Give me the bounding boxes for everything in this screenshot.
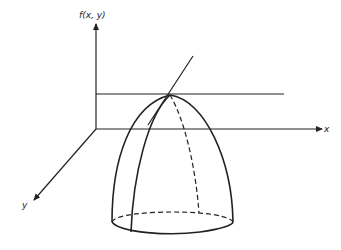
- base-back: [112, 212, 233, 222]
- surface-diagram: f(x, y) x y: [0, 0, 341, 250]
- surface-back-curve: [170, 95, 199, 213]
- y-axis: [34, 129, 96, 200]
- surface-front-curve: [131, 95, 170, 232]
- tangent-line: [148, 56, 193, 125]
- surface-right-edge: [170, 95, 233, 222]
- base-front: [112, 222, 233, 234]
- f-axis-label: f(x, y): [79, 10, 106, 20]
- y-axis-label: y: [21, 200, 28, 210]
- x-axis-label: x: [323, 124, 330, 134]
